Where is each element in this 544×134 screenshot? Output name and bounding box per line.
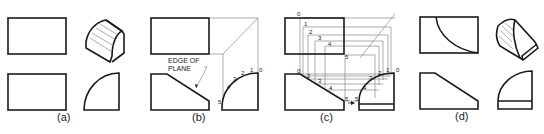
point-label: 1	[304, 21, 308, 27]
panel-d: (d)	[420, 17, 538, 122]
point-label: 0	[297, 68, 301, 74]
top-view-rect	[8, 18, 66, 54]
panel-label-a: (a)	[57, 111, 70, 123]
top-view-rect	[285, 18, 344, 54]
projection-lines	[209, 18, 258, 101]
top-view-rect	[420, 17, 478, 53]
point-label: 1	[250, 67, 254, 73]
point-label: 0	[297, 11, 301, 17]
isometric-quarter-round	[86, 20, 124, 62]
edge-of-plane-label-line1: EDGE OF	[168, 57, 200, 64]
side-view-quarter-round	[222, 73, 258, 110]
point-label: 0	[396, 67, 400, 73]
point-label: 1	[386, 67, 390, 73]
side-view-quarter-round	[84, 73, 119, 110]
leader-line	[196, 67, 207, 88]
isometric-cut-wedge	[497, 19, 538, 60]
front-view-truncated	[285, 74, 344, 110]
panel-b: EDGE OF PLANE 0 1 2 3 4 5 (b)	[151, 18, 263, 123]
top-view-rect	[151, 18, 209, 54]
point-label: 3	[318, 35, 322, 41]
side-view-quarter-round	[498, 71, 532, 109]
top-view-curve	[436, 17, 478, 53]
point-label: 2	[309, 29, 313, 35]
panel-label-d: (d)	[455, 110, 468, 122]
panel-label-b: (b)	[192, 111, 205, 123]
point-label: 0	[259, 67, 263, 73]
technical-drawing: (a) EDGE OF PLANE 0 1 2 3 4 5 (b)	[0, 0, 544, 134]
edge-of-plane-label-line2: PLANE	[168, 65, 191, 72]
front-view-truncated	[420, 73, 478, 109]
front-view-rect	[8, 74, 66, 110]
panel-c: 0 1 2 3 4 5 0 2 3 4 5 0 1 2 3 4 5 (c)	[285, 11, 400, 123]
panel-a: (a)	[8, 18, 124, 123]
panel-label-c: (c)	[320, 111, 333, 123]
